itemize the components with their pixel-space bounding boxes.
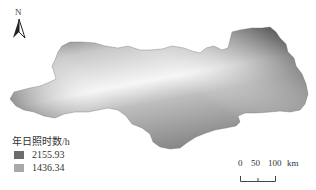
scale-bar: 0 50 100 km xyxy=(236,158,306,182)
legend-swatch-min xyxy=(14,164,24,172)
legend-swatch-max xyxy=(14,151,24,159)
scale-bar-line xyxy=(236,175,286,183)
north-arrow-icon xyxy=(12,19,26,39)
legend-title: 年日照时数/h xyxy=(12,136,70,148)
legend: 年日照时数/h 2155.93 1436.34 xyxy=(12,136,70,174)
scale-tick-100: 100 xyxy=(268,158,282,168)
legend-row-min: 1436.34 xyxy=(12,161,70,174)
legend-max-value: 2155.93 xyxy=(32,149,65,160)
north-arrow: N xyxy=(12,8,28,40)
north-label: N xyxy=(15,8,22,17)
scale-tick-0: 0 xyxy=(238,158,243,168)
scale-unit: km xyxy=(287,158,299,168)
scale-tick-50: 50 xyxy=(251,158,260,168)
legend-min-value: 1436.34 xyxy=(32,162,65,173)
legend-row-max: 2155.93 xyxy=(12,148,70,161)
